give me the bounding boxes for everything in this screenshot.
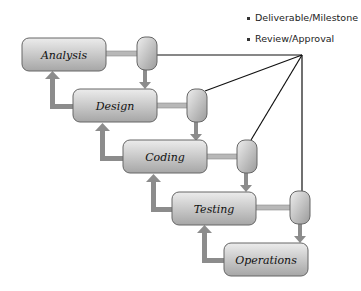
- svg-text:Coding: Coding: [145, 151, 185, 164]
- milestone-analysis: [137, 37, 157, 70]
- svg-text:Design: Design: [95, 100, 135, 113]
- legend-item-review: Review/Approval: [247, 33, 334, 44]
- legend-label: Review/Approval: [255, 33, 334, 44]
- milestone-design: [187, 89, 207, 122]
- stage-testing: Testing: [172, 192, 256, 225]
- bullet-icon: [247, 17, 250, 20]
- milestone-testing: [290, 191, 310, 224]
- stage-design: Design: [73, 89, 157, 122]
- svg-text:Operations: Operations: [235, 254, 297, 267]
- legend-label: Deliverable/Milestone: [255, 12, 358, 23]
- stage-coding: Coding: [123, 140, 207, 173]
- svg-text:Testing: Testing: [194, 203, 235, 216]
- stage-analysis: Analysis: [22, 38, 106, 71]
- stage-operations: Operations: [224, 243, 308, 276]
- legend-item-deliverable: Deliverable/Milestone: [247, 12, 358, 23]
- svg-text:Analysis: Analysis: [40, 49, 87, 62]
- milestone-coding: [237, 140, 257, 173]
- bullet-icon: [247, 38, 250, 41]
